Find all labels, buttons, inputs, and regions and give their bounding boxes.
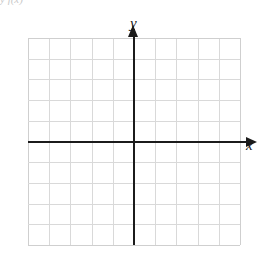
y-axis-line — [133, 29, 135, 245]
scan-artifact-text: y f(x) — [0, 0, 90, 5]
scan-artifact-top: y f(x) — [0, 0, 90, 7]
x-axis-label: x — [246, 138, 253, 153]
gridline-horizontal — [28, 245, 240, 246]
coordinate-plane — [28, 38, 240, 245]
y-axis-label: y — [130, 16, 137, 31]
x-axis-line — [28, 141, 248, 143]
